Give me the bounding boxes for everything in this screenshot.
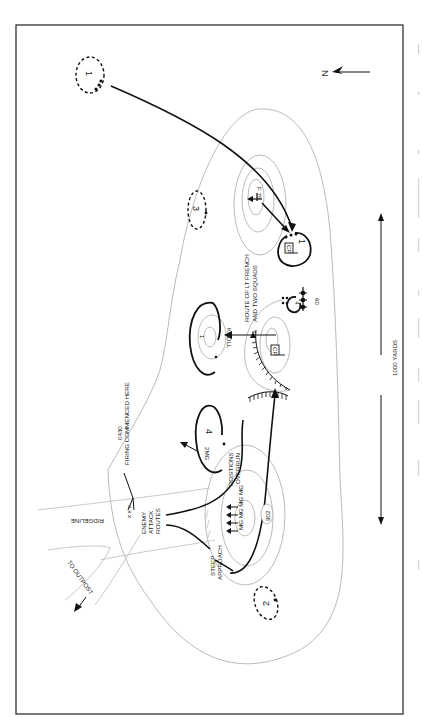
position-3-dashed: 3 <box>188 191 207 229</box>
enemy-route-lower <box>166 525 210 549</box>
svg-text:902: 902 <box>264 510 271 521</box>
svg-text:F 75: F 75 <box>256 187 263 200</box>
svg-text:ATTACK: ATTACK <box>147 510 154 534</box>
svg-text:3: 3 <box>191 206 201 211</box>
enemy-attack-routes-label: ENEMY ATTACK ROUTES <box>140 508 161 534</box>
cp2-position: CP <box>252 330 290 390</box>
svg-text:ROUTE OF LT FRENCH: ROUTE OF LT FRENCH <box>243 254 250 322</box>
knoll-position: KNOLL 1 <box>190 303 233 375</box>
ridgeline-label: RIDGELINE <box>71 518 104 525</box>
route-lt-french-label: ROUTE OF LT FRENCH AND TWO SQUADS <box>243 254 258 322</box>
svg-text:4: 4 <box>204 429 214 434</box>
svg-text:ROUTES: ROUTES <box>154 508 161 534</box>
svg-text:0430: 0430 <box>116 426 123 440</box>
svg-text:1: 1 <box>297 239 307 244</box>
north-arrow: N <box>320 66 370 77</box>
svg-text:2: 2 <box>261 601 271 606</box>
terrain-outline <box>108 109 343 664</box>
svg-text:60: 60 <box>314 298 321 305</box>
svg-text:CP: CP <box>286 245 293 254</box>
position-2-dashed: 2 <box>250 583 282 622</box>
map-frame <box>16 25 403 714</box>
svg-text:MG MG MG MG: MG MG MG MG <box>237 485 244 530</box>
svg-text:KNOLL: KNOLL <box>226 328 233 349</box>
hill-75-contours <box>234 155 286 255</box>
scale-label: 1000 YARDS <box>391 340 398 376</box>
svg-text:APPROACH: APPROACH <box>216 545 223 580</box>
svg-text:4: 4 <box>294 301 301 305</box>
mg-row: MG MG MG MG <box>226 485 244 534</box>
svg-text:FIRING COMMENCED HERE: FIRING COMMENCED HERE <box>123 382 130 465</box>
svg-text:STEEP: STEEP <box>209 556 216 576</box>
cp1-position: CP 1 <box>278 233 311 266</box>
enemy-x-marks: x x x <box>125 504 132 518</box>
svg-text:AND TWO SQUADS: AND TWO SQUADS <box>251 265 258 322</box>
svg-text:ENEMY: ENEMY <box>140 512 147 534</box>
svg-text:1: 1 <box>199 335 206 339</box>
f75-marker: F 75 <box>247 187 263 202</box>
position-1-dashed: 1 <box>76 57 104 93</box>
svg-text:x x x: x x x <box>125 504 132 518</box>
svg-text:2MG: 2MG <box>204 447 211 461</box>
scale-bar: 1000 YARDS <box>378 213 398 525</box>
hill-902: 902 <box>261 504 273 524</box>
positions-overrun-label: POSITIONS OVERRUN <box>227 452 241 486</box>
steep-approach-label: STEEP APPROACH <box>209 545 223 580</box>
tactical-map: N 1 <box>0 0 422 717</box>
svg-text:1: 1 <box>84 71 94 76</box>
north-label: N <box>320 70 330 77</box>
side-caption <box>418 44 419 570</box>
overrun-hachure <box>248 392 288 402</box>
svg-text:CP: CP <box>272 347 279 356</box>
svg-text:OVERRUN: OVERRUN <box>234 453 241 484</box>
svg-text:POSITIONS: POSITIONS <box>227 452 234 486</box>
position-4-small: 4 <box>282 297 301 313</box>
to-outpost-arrow <box>74 597 86 612</box>
firing-commenced-label: 0430 FIRING COMMENCED HERE <box>116 382 134 510</box>
to-outpost-label: TO OUTPOST <box>66 559 95 596</box>
mortar-60-symbol: 60 <box>299 287 321 311</box>
